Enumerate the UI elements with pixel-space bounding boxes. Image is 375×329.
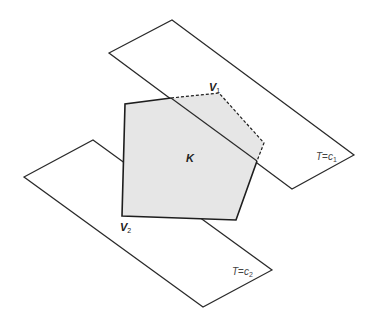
polytope-label: K [186,152,195,164]
polytope-planes-diagram: K V1 V2 T=c1 T=c2 [0,0,375,329]
